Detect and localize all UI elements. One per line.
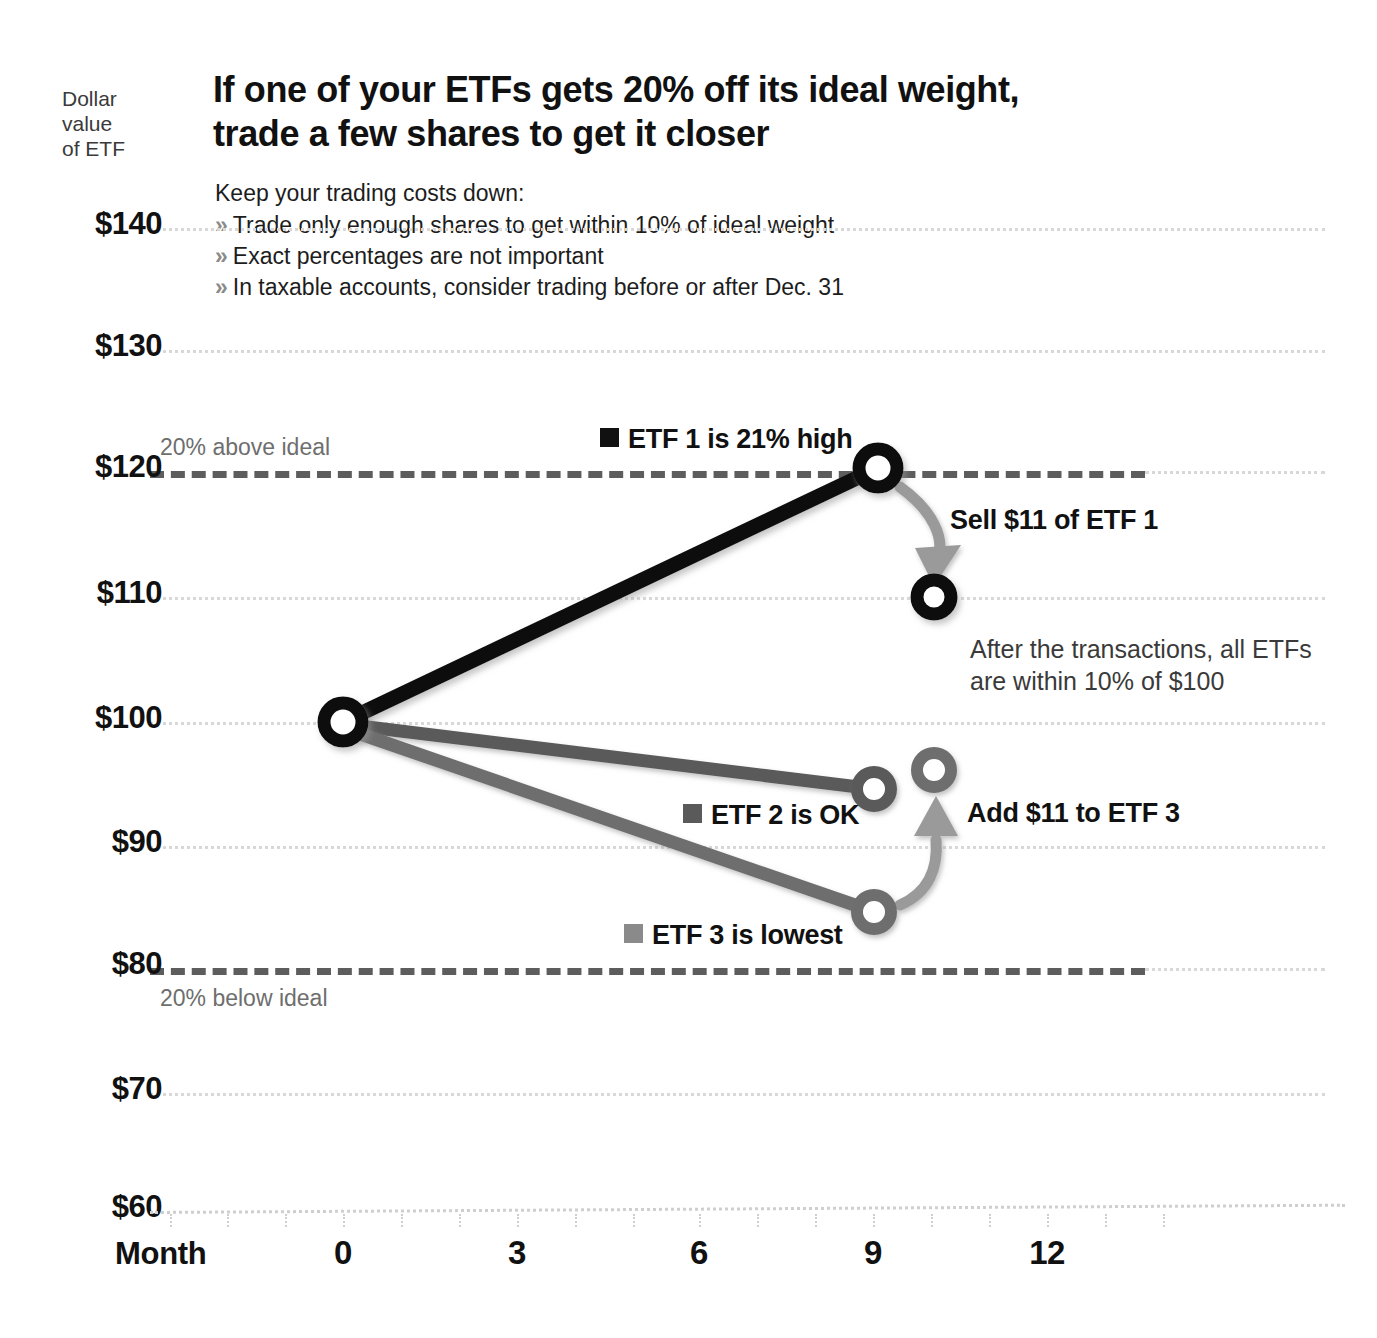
annotation-etf2-text: ETF 2 is OK bbox=[711, 800, 859, 830]
x-tick-6 bbox=[699, 1214, 701, 1227]
chart-plot-area: $140 $130 $120 $110 $100 $90 $80 $70 $60… bbox=[0, 0, 1377, 1338]
reference-line-below-ideal-tail bbox=[1145, 968, 1325, 971]
x-tick bbox=[989, 1214, 991, 1227]
y-tick-label-110: $110 bbox=[52, 575, 162, 611]
x-tick bbox=[170, 1214, 172, 1227]
arrow-add-head bbox=[914, 796, 958, 836]
legend-swatch-etf1 bbox=[600, 428, 619, 447]
x-tick-9 bbox=[873, 1214, 875, 1227]
legend-swatch-etf3 bbox=[624, 924, 643, 943]
x-axis-line bbox=[150, 1204, 1345, 1214]
x-tick-label-3: 3 bbox=[508, 1234, 526, 1272]
x-tick-3 bbox=[517, 1214, 519, 1227]
x-tick-label-9: 9 bbox=[864, 1234, 882, 1272]
gridline-110 bbox=[150, 597, 1325, 600]
arrow-sell-shaft bbox=[900, 487, 940, 556]
y-tick-label-90: $90 bbox=[52, 824, 162, 860]
annotation-etf3-text: ETF 3 is lowest bbox=[652, 920, 843, 950]
x-tick bbox=[931, 1214, 933, 1227]
arrow-sell-head bbox=[915, 545, 961, 586]
series-line-etf1 bbox=[343, 468, 878, 722]
x-tick-label-0: 0 bbox=[334, 1234, 352, 1272]
annotation-etf1-text: ETF 1 is 21% high bbox=[628, 424, 852, 454]
annotation-etf3: ETF 3 is lowest bbox=[624, 920, 843, 951]
x-tick bbox=[575, 1214, 577, 1227]
x-tick bbox=[1163, 1214, 1165, 1227]
reference-line-above-ideal-tail bbox=[1145, 471, 1325, 474]
y-tick-label-120: $120 bbox=[52, 449, 162, 485]
gridline-130 bbox=[150, 350, 1325, 353]
x-tick-12 bbox=[1047, 1214, 1049, 1227]
data-point-etf2-end bbox=[857, 772, 891, 806]
y-tick-label-140: $140 bbox=[52, 206, 162, 242]
annotation-etf1: ETF 1 is 21% high bbox=[600, 424, 852, 455]
x-tick bbox=[633, 1214, 635, 1227]
x-axis-title: Month bbox=[115, 1236, 206, 1272]
y-tick-label-100: $100 bbox=[52, 700, 162, 736]
x-tick bbox=[285, 1214, 287, 1227]
band-label-above: 20% above ideal bbox=[160, 434, 330, 461]
x-tick-label-12: 12 bbox=[1029, 1234, 1065, 1272]
gridline-70 bbox=[150, 1093, 1325, 1096]
arrow-add-shaft bbox=[900, 840, 936, 905]
y-tick-label-60: $60 bbox=[52, 1189, 162, 1225]
y-tick-label-80: $80 bbox=[52, 946, 162, 982]
reference-line-above-ideal bbox=[150, 471, 1145, 478]
data-point-etf1-end bbox=[859, 449, 897, 487]
legend-swatch-etf2 bbox=[683, 804, 702, 823]
gridline-90 bbox=[150, 846, 1325, 849]
x-tick-label-6: 6 bbox=[690, 1234, 708, 1272]
band-label-below: 20% below ideal bbox=[160, 985, 328, 1012]
annotation-sell: Sell $11 of ETF 1 bbox=[950, 505, 1158, 536]
gridline-140 bbox=[150, 228, 1325, 231]
x-tick bbox=[1105, 1214, 1107, 1227]
x-tick bbox=[815, 1214, 817, 1227]
gridline-100 bbox=[150, 722, 1325, 725]
series-line-etf2 bbox=[343, 724, 875, 789]
x-tick bbox=[401, 1214, 403, 1227]
annotation-after: After the transactions, all ETFs are wit… bbox=[970, 633, 1330, 697]
y-tick-label-70: $70 bbox=[52, 1071, 162, 1107]
annotation-add: Add $11 to ETF 3 bbox=[967, 798, 1180, 829]
reference-line-below-ideal bbox=[150, 968, 1145, 975]
data-point-etf3-after bbox=[917, 753, 951, 787]
x-tick bbox=[227, 1214, 229, 1227]
annotation-etf2: ETF 2 is OK bbox=[683, 800, 859, 831]
y-tick-label-130: $130 bbox=[52, 328, 162, 364]
data-point-etf3-end bbox=[857, 895, 891, 929]
x-tick bbox=[459, 1214, 461, 1227]
x-tick bbox=[757, 1214, 759, 1227]
x-tick-0 bbox=[343, 1214, 345, 1227]
